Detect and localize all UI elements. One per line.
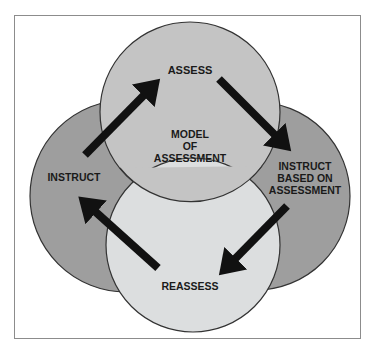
label-instruct-based-line2: BASED ON bbox=[277, 172, 332, 184]
diagram-canvas: ASSESS MODEL OF ASSESSMENT INSTRUCT INST… bbox=[0, 0, 375, 355]
label-center-line2: OF bbox=[183, 140, 198, 152]
label-center-line1: MODEL bbox=[171, 128, 210, 140]
label-center-line3: ASSESSMENT bbox=[154, 152, 227, 164]
label-instruct-based-line3: ASSESSMENT bbox=[269, 184, 342, 196]
label-instruct: INSTRUCT bbox=[47, 171, 101, 183]
label-instruct-based-line1: INSTRUCT bbox=[278, 160, 332, 172]
label-assess: ASSESS bbox=[168, 64, 213, 76]
label-reassess: REASSESS bbox=[161, 280, 218, 292]
